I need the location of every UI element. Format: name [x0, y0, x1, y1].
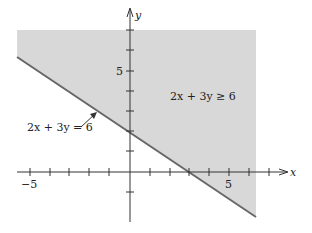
- line-label: 2x + 3y = 6: [27, 121, 93, 134]
- x-axis-label: x: [290, 166, 297, 179]
- y-tick-label-5: 5: [116, 65, 123, 78]
- y-axis-label: y: [134, 9, 142, 22]
- region-label: 2x + 3y ≥ 6: [170, 90, 236, 103]
- chart: y x −5 5 5 2x + 3y ≥ 6 2x + 3y = 6: [0, 0, 312, 233]
- x-tick-label-5: 5: [225, 178, 232, 191]
- x-tick-label-neg5: −5: [21, 178, 37, 191]
